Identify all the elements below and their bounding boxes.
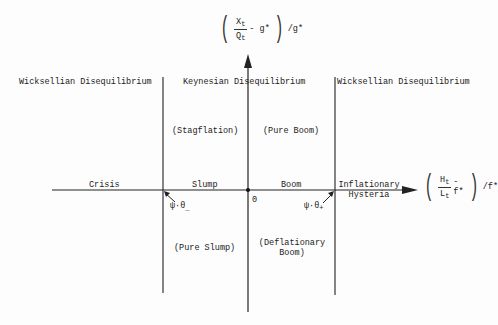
segment-inflationary-hysteria: Inflationary Hysteria [336, 180, 402, 200]
axes-and-boundaries [0, 0, 498, 325]
region-title-right: Wicksellian Disequilibrium [337, 77, 470, 87]
quadrant-deflationary-boom: (Deflationary Boom) [254, 238, 330, 258]
quadrant-stagflation: (Stagflation) [172, 126, 238, 136]
quadrant-pure-boom: (Pure Boom) [263, 126, 319, 136]
region-title-center: Keynesian Disequilibrium [183, 77, 305, 87]
segment-slump: Slump [192, 180, 218, 190]
quadrant-pure-slump: (Pure Slump) [174, 243, 235, 253]
x-axis-arrowhead [402, 186, 418, 194]
origin-dot [246, 188, 250, 192]
region-title-left: Wicksellian Disequilibrium [19, 77, 152, 87]
x-axis-label: ( Ht Lt - f* ) /f* [420, 172, 498, 202]
plus-threshold-arrowhead [328, 191, 334, 197]
diagram-canvas: ( Xt Qt - g* ) /g* ( Ht Lt - f* ) /f* Wi… [0, 0, 498, 325]
segment-crisis: Crisis [89, 180, 120, 190]
y-axis-label: ( Xt Qt - g* ) /g* [216, 14, 303, 44]
origin-label: 0 [252, 195, 257, 205]
y-axis-arrowhead [244, 54, 252, 68]
threshold-minus-label: ψ·θ_ [170, 201, 190, 213]
segment-boom: Boom [281, 180, 301, 190]
threshold-plus-label: ψ·θ+ [304, 201, 324, 213]
